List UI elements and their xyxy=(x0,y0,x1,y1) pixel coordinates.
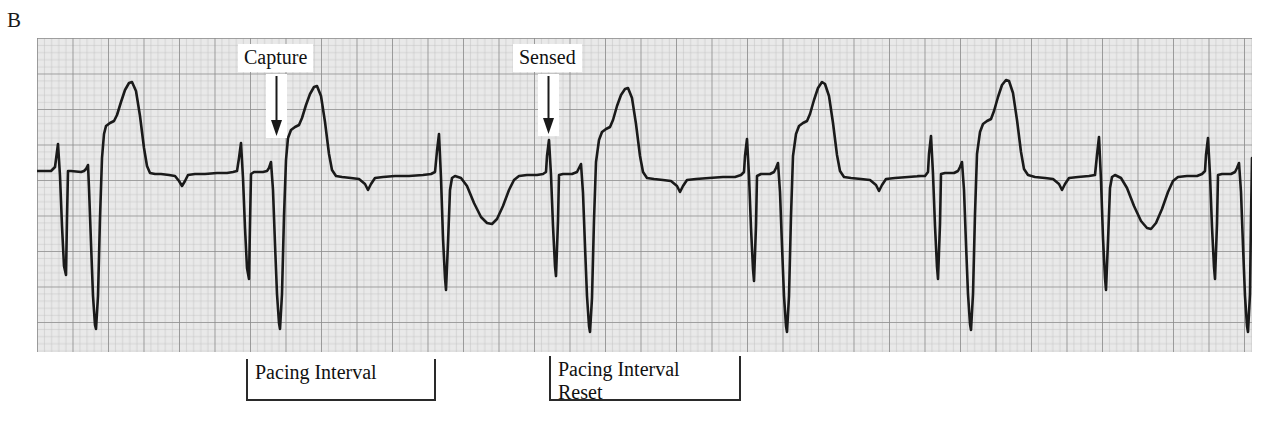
down-arrow-icon xyxy=(266,74,287,138)
annotation-capture-label: Capture xyxy=(238,44,313,72)
bracket-pacing-interval: Pacing Interval xyxy=(246,359,436,401)
annotation-sensed-label: Sensed xyxy=(513,44,582,72)
bracket-pacing-interval-label: Pacing Interval xyxy=(255,361,377,384)
sensed-arrow-wrap xyxy=(538,74,559,136)
capture-arrow-wrap xyxy=(266,74,287,138)
bracket-pacing-interval-reset: Pacing Interval Reset xyxy=(549,356,741,401)
panel-label: B xyxy=(7,8,22,33)
annotation-capture: Capture xyxy=(238,44,313,72)
down-arrow-icon xyxy=(538,74,559,136)
bracket-pacing-interval-reset-label: Pacing Interval Reset xyxy=(558,358,680,404)
grid-lines xyxy=(37,38,1252,352)
ecg-chart-svg xyxy=(37,38,1252,352)
ecg-rhythm-strip xyxy=(37,38,1252,352)
annotation-sensed: Sensed xyxy=(513,44,582,72)
